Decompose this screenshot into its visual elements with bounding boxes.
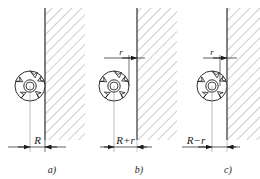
panel-label-b: b) (135, 164, 144, 176)
dimension-label-b: R+r (115, 134, 135, 146)
technical-figure: R a) r R+r b) (0, 0, 260, 179)
small-dimension-label-c: r (210, 47, 214, 57)
dimension-label-c: R−r (186, 134, 206, 146)
small-dimension-label-b: r (119, 47, 123, 57)
wall-hatch-b (137, 8, 177, 140)
panel-b: r R+r b) (99, 8, 177, 176)
wall-hatch-a (45, 8, 85, 140)
dimension-label-a: R (33, 134, 41, 146)
panel-label-c: c) (224, 164, 232, 176)
panel-label-a: a) (48, 164, 57, 176)
wall-hatch-c (227, 8, 260, 140)
panel-a: R a) (8, 8, 85, 176)
panel-c: r R−r c) (182, 8, 260, 176)
